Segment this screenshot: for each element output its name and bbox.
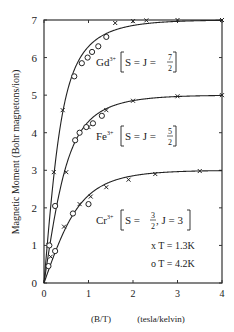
marker-x-1-3K [49,255,53,259]
right-bracket [173,52,176,72]
marker-o-4-2K [86,202,91,207]
curve-cr [44,171,222,283]
marker-x-1-3K [62,225,66,229]
frac-den: 2 [168,64,172,73]
marker-x-1-3K [127,178,131,182]
y-tick-label: 3 [32,164,38,176]
right-bracket [173,126,176,146]
legend-item: x T = 1.3K [151,240,195,251]
frac-num: 3 [151,211,155,220]
left-bracket [121,126,124,146]
marker-o-4-2K [96,44,101,49]
marker-o-4-2K [77,130,82,135]
y-tick-label: 5 [32,89,38,101]
frac-num: 7 [168,53,172,62]
marker-o-4-2K [53,203,58,208]
marker-o-4-2K [90,121,95,126]
spin-spec: S = J = [125,130,156,142]
marker-x-1-3K [113,21,117,25]
ion-label: Fe3+ [96,130,114,142]
annotation-cr: Cr3+S = 32, J = 3 [96,210,190,231]
marker-o-4-2K [53,248,58,253]
marker-o-4-2K [104,34,109,39]
marker-x-1-3K [89,195,93,199]
left-bracket [121,52,124,72]
y-axis-label: Magnetic Moment (Bohr magnetons/ion) [10,70,22,235]
spin-spec: S = [125,214,140,226]
x-tick-label: 2 [131,288,136,299]
marker-o-4-2K [89,49,94,54]
marker-o-4-2K [47,243,52,248]
marker-o-4-2K [73,138,78,143]
x-tick-label: 4 [220,288,225,299]
y-tick-label: 7 [32,14,38,26]
x-axis-label-units: (B/T) [91,314,111,324]
x-axis-label-desc: (tesla/kelvin) [137,314,184,324]
marker-o-4-2K [85,55,90,60]
frac-den: 2 [151,222,155,231]
x-tick-label: 3 [175,288,180,299]
marker-o-4-2K [84,124,89,129]
x-tick-label: 0 [42,288,47,299]
marker-o-4-2K [70,211,75,216]
y-tick-label: 4 [32,127,38,139]
y-tick-label: 2 [32,202,38,214]
ion-label: Gd3+ [96,56,116,68]
frac-den: 2 [168,138,172,147]
marker-o-4-2K [99,113,104,118]
y-tick-label: 1 [32,239,38,251]
spin-spec-tail: , J = 3 [156,214,183,226]
x-tick-label: 1 [86,288,91,299]
annotation-gd: Gd3+S = J = 72 [96,52,176,73]
annotation-fe: Fe3+S = J = 52 [96,126,176,147]
legend-item: o T = 4.2K [151,258,195,269]
spin-spec: S = J = [125,56,156,68]
magnetization-chart: 0123401234567(B/T)(tesla/kelvin)Magnetic… [0,0,234,332]
y-tick-label: 6 [32,52,38,64]
right-bracket [187,210,190,230]
left-bracket [121,210,124,230]
curve-fe [44,95,222,283]
marker-x-1-3K [104,185,108,189]
frac-num: 5 [168,127,172,136]
marker-o-4-2K [46,263,51,268]
marker-o-4-2K [79,61,84,66]
y-tick-label: 0 [32,277,38,289]
ion-label: Cr3+ [96,214,114,226]
marker-o-4-2K [72,74,77,79]
labels: 0123401234567(B/T)(tesla/kelvin)Magnetic… [10,14,225,324]
